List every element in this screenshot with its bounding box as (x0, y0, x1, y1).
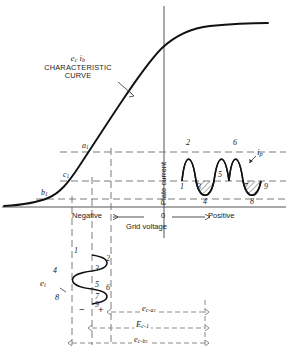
plate-marker-8: 8 (250, 198, 254, 206)
figure-root: ec ib CHARACTERISTIC CURVE a1 c1 b1 Plat… (0, 0, 288, 352)
grid-marker-5: 5 (95, 281, 99, 289)
dimension-label-Ec1: Ec-1 (134, 320, 151, 330)
grid-marker-6: 6 (106, 284, 110, 292)
grid-voltage-waveform (60, 255, 107, 304)
plate-marker-4: 4 (203, 198, 207, 206)
plate-current-symbol: ip (257, 148, 263, 158)
polarity-minus: − (79, 305, 85, 315)
y-axis-title: Plate current (160, 162, 168, 205)
caption-symbol-ec: ec (71, 54, 78, 63)
plate-marker-5: 5 (218, 171, 222, 179)
caption-symbol-ib: ib (79, 54, 85, 63)
caption-line-curve: CURVE (65, 71, 92, 80)
x-axis-label-positive: Positive (208, 212, 235, 220)
dimension-label-ec-a1: ec-a1 (140, 304, 158, 314)
dimension-label-ec-b1: ec-b1 (132, 335, 150, 345)
plate-marker-9: 9 (264, 183, 268, 191)
operating-point-b1: b1 (41, 189, 48, 198)
grid-marker-3: 3 (95, 265, 99, 273)
plate-marker-1: 1 (180, 183, 184, 191)
figure-drawing (0, 0, 288, 352)
grid-marker-8: 8 (55, 294, 59, 302)
plate-marker-3: 3 (197, 183, 201, 191)
x-axis-label-origin: 0 (161, 212, 165, 220)
polarity-plus: + (98, 305, 104, 315)
plate-marker-2: 2 (186, 139, 190, 147)
characteristic-curve-caption: ec ib CHARACTERISTIC CURVE (34, 55, 122, 79)
x-axis-label-negative: Negative (72, 212, 102, 220)
grid-marker-4: 4 (53, 267, 57, 275)
operating-point-a1: a1 (82, 142, 89, 151)
x-axis-title: Grid voltage (126, 223, 167, 231)
grid-input-symbol: ei (40, 279, 46, 289)
plate-marker-6: 6 (233, 139, 237, 147)
grid-marker-1: 1 (74, 247, 78, 255)
operating-point-c1: c1 (63, 171, 69, 180)
grid-marker-2: 2 (106, 255, 110, 263)
plate-marker-7: 7 (244, 183, 248, 191)
